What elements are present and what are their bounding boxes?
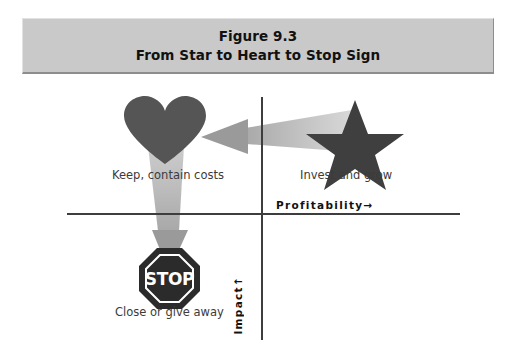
x-axis-label: Profitability→ xyxy=(276,199,374,211)
quadrant-label-keep: Keep, contain costs xyxy=(112,168,224,182)
quadrant-diagram: STOP Keep, contain costs Invest and grow… xyxy=(0,80,517,356)
heart-icon xyxy=(124,96,206,164)
quadrant-label-close: Close or give away xyxy=(115,305,224,319)
figure-number: Figure 9.3 xyxy=(219,27,298,46)
stop-sign-icon: STOP xyxy=(139,248,200,309)
y-axis-label-text: Impact xyxy=(232,286,244,335)
x-axis-arrow-icon: → xyxy=(363,199,373,211)
stop-sign-text: STOP xyxy=(145,269,195,289)
diagram-graphics: STOP xyxy=(0,80,517,356)
figure-title: From Star to Heart to Stop Sign xyxy=(136,46,380,65)
figure-title-banner: Figure 9.3 From Star to Heart to Stop Si… xyxy=(22,18,494,74)
y-axis-arrow-icon: ↑ xyxy=(232,276,244,286)
x-axis-label-text: Profitability xyxy=(276,199,363,211)
quadrant-label-invest: Invest and grow xyxy=(300,168,392,182)
y-axis-label: Impact↑ xyxy=(232,276,244,335)
